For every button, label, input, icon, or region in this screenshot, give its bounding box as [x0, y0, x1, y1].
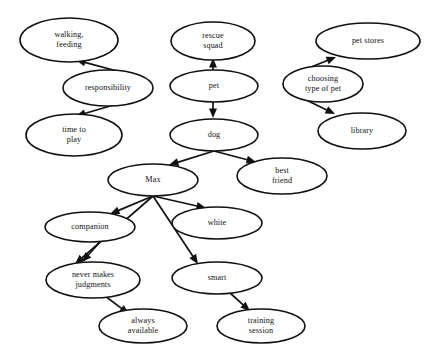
node-companion[interactable]: companion: [45, 212, 135, 242]
node-label: pet: [209, 81, 220, 90]
node-label: pet stores: [352, 36, 384, 45]
node-smart[interactable]: smart: [172, 262, 262, 294]
node-label: judgments: [74, 280, 110, 289]
node-label: play: [67, 135, 82, 144]
node-label: training: [248, 316, 274, 325]
node-pet[interactable]: pet: [170, 70, 258, 102]
node-label: always: [131, 316, 154, 325]
edge-line: [229, 292, 244, 306]
edge-line: [153, 196, 198, 206]
edge-dog-best_friend: [214, 151, 256, 163]
node-label: white: [208, 218, 227, 227]
nodes-layer: walking,feedingresponsibilitytime toplay…: [20, 18, 420, 343]
node-label: responsibility: [85, 83, 132, 92]
node-label: library: [351, 126, 374, 135]
node-training_session[interactable]: trainingsession: [217, 309, 305, 343]
node-max[interactable]: Max: [108, 164, 198, 196]
node-label: walking,: [54, 30, 83, 39]
edge-line: [87, 242, 100, 256]
edge-max-companion: [110, 196, 153, 214]
node-label: squad: [203, 41, 223, 50]
edge-line: [214, 151, 248, 160]
node-label: friend: [272, 176, 292, 185]
node-label: never makes: [72, 270, 114, 279]
node-label: type of pet: [305, 84, 342, 93]
node-pet_stores[interactable]: pet stores: [316, 23, 420, 59]
node-label: smart: [208, 273, 227, 282]
arrowhead-icon: [209, 109, 217, 119]
node-label: rescue: [202, 31, 224, 40]
node-label: feeding: [56, 40, 81, 49]
node-always_available[interactable]: alwaysavailable: [99, 309, 187, 343]
node-label: available: [128, 326, 159, 335]
node-label: choosing: [308, 74, 338, 83]
edge-dog-max: [169, 151, 214, 166]
node-white[interactable]: white: [172, 207, 262, 239]
edge-line: [117, 196, 153, 211]
node-never_makes_judgments[interactable]: never makesjudgments: [46, 262, 140, 298]
node-dog[interactable]: dog: [170, 119, 258, 151]
node-label: session: [249, 326, 273, 335]
node-responsibility[interactable]: responsibility: [63, 70, 153, 106]
concept-map-canvas: walking,feedingresponsibilitytime toplay…: [0, 0, 424, 364]
node-label: Max: [145, 175, 160, 184]
arrowhead-icon: [189, 254, 198, 264]
arrowhead-icon: [110, 207, 120, 214]
edge-line: [105, 296, 123, 309]
edge-companion-never_makes_judgments: [82, 242, 100, 262]
edge-line: [177, 151, 214, 163]
node-label: best: [275, 166, 289, 175]
node-choosing_type_of_pet[interactable]: choosingtype of pet: [283, 66, 363, 102]
node-rescue_squad[interactable]: rescuesquad: [171, 22, 255, 60]
node-walking_feeding[interactable]: walking,feeding: [20, 18, 118, 62]
node-label: time to: [62, 125, 86, 134]
node-label: companion: [71, 222, 108, 231]
arrowhead-icon: [326, 57, 336, 64]
edge-pet-dog: [209, 102, 217, 118]
edge-smart-training_session: [229, 292, 250, 311]
node-label: dog: [208, 130, 221, 139]
node-time_to_play[interactable]: time toplay: [26, 114, 122, 156]
node-best_friend[interactable]: bestfriend: [237, 158, 327, 194]
node-library[interactable]: library: [318, 113, 406, 149]
